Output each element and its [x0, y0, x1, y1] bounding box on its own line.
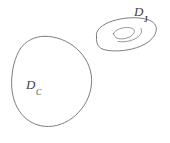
label-torus-domain: DJ: [134, 3, 147, 22]
label-torus-domain-subscript: J: [144, 15, 148, 24]
figure-canvas: DC DJ: [0, 0, 170, 143]
torus-shading-arc: [118, 28, 142, 41]
large-blob-outline: [12, 36, 92, 126]
label-torus-domain-base: D: [134, 4, 143, 19]
label-large-domain: DC: [26, 76, 41, 95]
torus-inner-hole: [114, 28, 135, 39]
label-large-domain-subscript: C: [36, 88, 41, 97]
label-large-domain-base: D: [26, 77, 35, 92]
